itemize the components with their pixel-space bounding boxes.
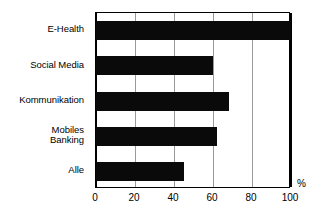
x-axis-unit-label: % [297, 178, 306, 190]
x-tick-label: 60 [206, 192, 217, 204]
bar [96, 21, 291, 40]
bar [96, 92, 229, 111]
plot-area [95, 12, 290, 188]
category-axis-labels: E-HealthSocial MediaKommunikationMobiles… [0, 12, 90, 188]
x-tick-label: 0 [92, 192, 98, 204]
category-label: Kommunikation [19, 95, 84, 106]
category-label: E-Health [47, 24, 84, 35]
category-label: Social Media [30, 60, 84, 71]
category-label: Alle [68, 165, 84, 176]
x-axis-tick-labels: 020406080100 [95, 192, 290, 208]
x-tick-label: 20 [128, 192, 139, 204]
category-label: Mobiles Banking [50, 125, 84, 146]
bar [96, 162, 184, 181]
x-tick-label: 100 [282, 192, 299, 204]
x-tick-label: 80 [245, 192, 256, 204]
bar [96, 56, 213, 75]
bar [96, 127, 217, 146]
bar-chart: E-HealthSocial MediaKommunikationMobiles… [0, 0, 322, 224]
x-tick-label: 40 [167, 192, 178, 204]
